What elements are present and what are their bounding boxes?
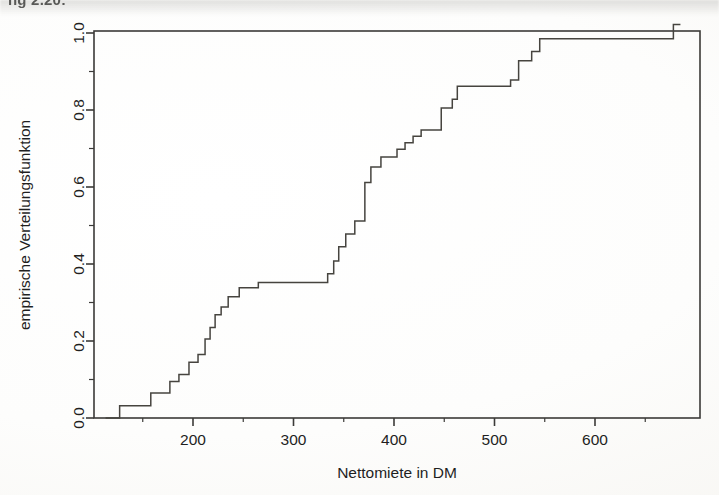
x-axis-title: Nettomiete in DM [337,464,457,481]
x-tick-label: 500 [482,431,508,448]
plot-frame-box [94,31,700,418]
x-tick-label: 400 [381,431,407,448]
y-tick-label: 1.0 [70,22,87,44]
x-tick-label: 300 [281,431,307,448]
y-tick-label: 0.2 [70,330,87,352]
x-axis-tick-labels: 200300400500600 [180,431,608,448]
ecdf-plot: 200300400500600 0.00.20.40.60.81.0 Netto… [0,0,719,495]
y-axis-title: empirische Verteilungsfunktion [16,120,33,330]
y-axis-tick-labels: 0.00.20.40.60.81.0 [70,22,87,429]
y-tick-label: 0.0 [70,407,87,429]
y-axis-tick-marks [86,33,94,418]
ecdf-step-curve [106,25,681,418]
y-tick-label: 0.4 [70,253,87,275]
y-tick-label: 0.8 [70,99,87,121]
x-axis-tick-marks [143,418,646,426]
x-tick-label: 200 [180,431,206,448]
y-tick-label: 0.6 [70,176,87,198]
x-tick-label: 600 [582,431,608,448]
